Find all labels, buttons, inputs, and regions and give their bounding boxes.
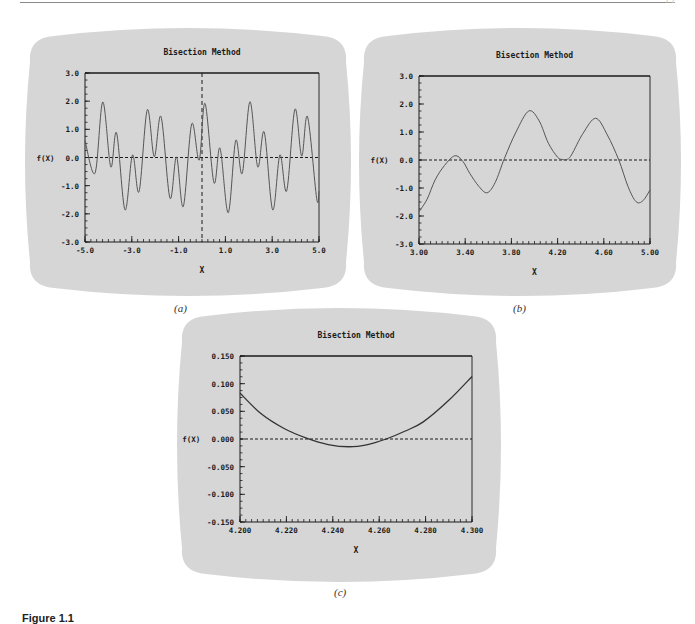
y-tick-label: -1.0	[61, 182, 80, 191]
x-tick-label: 5.00	[641, 248, 660, 257]
x-tick-label: 4.20	[549, 248, 568, 257]
chart-title: Bisection Method	[317, 330, 394, 340]
x-tick-label: 4.220	[275, 526, 298, 535]
x-tick-label: -3.0	[123, 246, 142, 255]
y-tick-label: 3.0	[65, 69, 79, 78]
x-tick-label: 4.300	[461, 526, 484, 535]
x-tick-label: 4.60	[595, 248, 614, 257]
y-tick-label: -3.0	[61, 238, 80, 247]
y-tick-label: -2.0	[61, 210, 80, 219]
y-tick-label: -2.0	[395, 212, 414, 221]
x-tick-label: 3.00	[410, 248, 429, 257]
chart-panel-b: Bisection Method3.003.403.804.204.605.00…	[359, 28, 681, 296]
x-axis-label: X	[532, 268, 537, 277]
y-axis-label: f(X)	[371, 156, 389, 165]
y-tick-label: -0.150	[207, 518, 235, 527]
figure-caption: Figure 1.1	[22, 612, 74, 624]
x-tick-label: 3.80	[502, 248, 521, 257]
y-tick-label: 2.0	[65, 97, 79, 106]
y-tick-label: 0.0	[65, 154, 79, 163]
y-tick-label: 0.0	[399, 156, 413, 165]
y-axis-label: f(X)	[37, 154, 55, 163]
y-tick-label: 0.150	[211, 352, 234, 361]
y-tick-label: -1.0	[395, 184, 414, 193]
y-tick-label: 0.100	[211, 380, 234, 389]
y-tick-label: 1.0	[65, 125, 79, 134]
x-tick-label: 4.240	[322, 526, 345, 535]
y-tick-label: 0.000	[211, 435, 234, 444]
x-tick-label: 4.280	[414, 526, 437, 535]
y-tick-label: -0.050	[207, 463, 235, 472]
x-axis-label: X	[200, 266, 205, 275]
chart-title: Bisection Method	[163, 47, 240, 57]
panel-label-a: (a)	[174, 302, 187, 314]
panel-label-b: (b)	[513, 302, 526, 314]
x-tick-label: 4.200	[229, 526, 252, 535]
x-tick-label: 3.0	[265, 246, 279, 255]
x-tick-label: 5.0	[312, 246, 326, 255]
crt-screen	[177, 308, 501, 582]
x-tick-label: -1.0	[170, 246, 189, 255]
chart-panel-a: Bisection Method-5.0-3.0-1.01.03.05.03.0…	[25, 28, 351, 296]
panel-label-c: (c)	[334, 586, 346, 598]
x-tick-label: 1.0	[219, 246, 233, 255]
x-tick-label: 4.260	[368, 526, 391, 535]
y-tick-label: 0.050	[211, 407, 234, 416]
y-tick-label: 1.0	[399, 128, 413, 137]
y-axis-label: f(X)	[182, 435, 200, 444]
y-tick-label: 3.0	[399, 72, 413, 81]
chart-panel-c: Bisection Method4.2004.2204.2404.2604.28…	[177, 308, 501, 582]
y-tick-label: -3.0	[395, 240, 414, 249]
y-tick-label: 2.0	[399, 100, 413, 109]
y-tick-label: -0.100	[207, 490, 235, 499]
x-tick-label: -5.0	[76, 246, 95, 255]
x-tick-label: 3.40	[456, 248, 475, 257]
x-axis-label: X	[354, 546, 359, 555]
chart-title: Bisection Method	[496, 50, 573, 60]
